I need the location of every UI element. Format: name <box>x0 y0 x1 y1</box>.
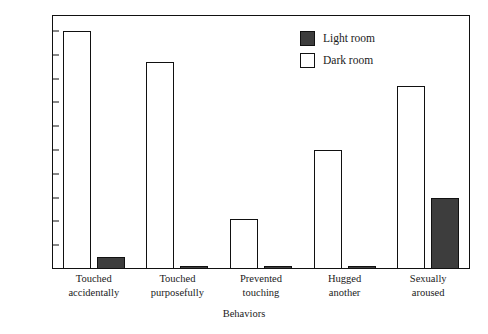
bar-light-room <box>431 198 459 269</box>
bar-chart: 100%90%80%70%60%50%40%30%20%10%0% Touche… <box>0 0 488 334</box>
bar-group <box>397 15 459 269</box>
chart-legend: Light room Dark room <box>300 28 375 72</box>
legend-swatch-light-room <box>300 31 315 46</box>
legend-label-light-room: Light room <box>323 32 375 44</box>
bar-dark-room <box>314 150 342 269</box>
x-axis-label-line: Sexually <box>386 272 470 286</box>
x-axis-category-labels: TouchedaccidentallyTouchedpurposefullyPr… <box>52 272 470 306</box>
x-axis-category-label: Touchedpurposefully <box>136 272 220 299</box>
x-axis-category-label: Preventedtouching <box>219 272 303 299</box>
legend-label-dark-room: Dark room <box>323 54 373 66</box>
bar-dark-room <box>146 62 174 269</box>
x-axis-label-line: Touched <box>136 272 220 286</box>
bar-group <box>230 15 292 269</box>
x-axis-label-line: purposefully <box>136 286 220 300</box>
y-axis: 100%90%80%70%60%50%40%30%20%10%0% <box>0 0 52 334</box>
x-axis-category-label: Huggedanother <box>303 272 387 299</box>
x-axis-category-label: Sexuallyaroused <box>386 272 470 299</box>
x-axis-category-label: Touchedaccidentally <box>52 272 136 299</box>
x-axis-label-line: another <box>303 286 387 300</box>
bar-light-room <box>97 257 125 269</box>
x-axis-title: Behaviors <box>0 308 488 319</box>
x-axis-label-line: accidentally <box>52 286 136 300</box>
bar-light-room <box>180 266 208 269</box>
x-axis-label-line: Hugged <box>303 272 387 286</box>
x-axis-label-line: Touched <box>52 272 136 286</box>
x-axis-label-line: touching <box>219 286 303 300</box>
bar-light-room <box>264 266 292 269</box>
legend-item-dark-room: Dark room <box>300 50 375 70</box>
legend-swatch-dark-room <box>300 53 315 68</box>
bar-light-room <box>348 266 376 269</box>
bar-dark-room <box>63 31 91 269</box>
bars-layer <box>52 15 470 269</box>
x-axis-label-line: Prevented <box>219 272 303 286</box>
bar-group <box>146 15 208 269</box>
bar-dark-room <box>230 219 258 269</box>
bar-group <box>63 15 125 269</box>
legend-item-light-room: Light room <box>300 28 375 48</box>
bar-dark-room <box>397 86 425 269</box>
x-axis-label-line: aroused <box>386 286 470 300</box>
